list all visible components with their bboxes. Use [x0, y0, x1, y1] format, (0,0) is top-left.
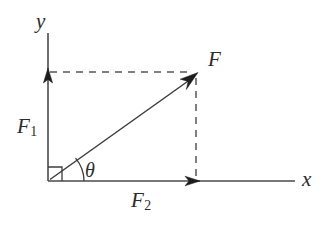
vector-diagram-figure: y x F θ F1 F2 [0, 0, 329, 230]
theta-angle-label: θ [85, 160, 95, 180]
vector-diagram-canvas [0, 0, 329, 230]
resultant-vector-line [50, 79, 191, 180]
f2-component-label: F2 [131, 190, 151, 213]
f1-component-label: F1 [17, 116, 37, 139]
f1-label-base: F [17, 114, 30, 138]
x-axis-label: x [302, 169, 311, 190]
f2-label-subscript: 2 [144, 198, 151, 213]
theta-angle-arc [76, 158, 85, 181]
resultant-vector-label: F [208, 49, 221, 70]
f1-label-subscript: 1 [30, 124, 37, 139]
f2-label-base: F [131, 188, 144, 212]
y-axis-label: y [36, 11, 45, 32]
